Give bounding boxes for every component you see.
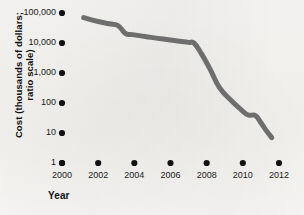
y-axis-tick-markers <box>59 10 65 166</box>
y-axis-title-line-2: ratio scale) <box>25 0 36 150</box>
y-axis-tick-label: 1 <box>0 157 56 167</box>
y-axis-tick-dot <box>59 10 65 16</box>
x-axis-tick-dot <box>240 160 246 166</box>
x-axis-tick-label: 2010 <box>223 170 263 180</box>
y-axis-tick-dot <box>59 40 65 46</box>
x-axis-tick-dot <box>95 160 101 166</box>
x-axis-tick-dot <box>204 160 210 166</box>
x-axis-tick-label: 2012 <box>259 170 299 180</box>
chart-plot-area <box>0 0 304 215</box>
x-axis-title: Year <box>48 190 70 201</box>
x-axis-tick-dot <box>276 160 282 166</box>
x-axis-tick-label: 2002 <box>78 170 118 180</box>
x-axis-tick-label: 2008 <box>187 170 227 180</box>
y-axis-title: Cost (thousands of dollars; ratio scale) <box>14 0 44 150</box>
x-axis-tick-dot <box>167 160 173 166</box>
y-axis-tick-dot <box>59 70 65 76</box>
y-axis-title-line-1: Cost (thousands of dollars; <box>14 0 25 150</box>
x-axis-tick-label: 2000 <box>42 170 82 180</box>
x-axis-tick-label: 2006 <box>151 170 191 180</box>
x-axis-tick-dot <box>59 160 65 166</box>
y-axis-tick-dot <box>59 130 65 136</box>
x-axis-tick-markers <box>59 160 282 166</box>
cost-trend-line <box>84 18 272 138</box>
x-axis-tick-label: 2004 <box>114 170 154 180</box>
chart-figure: 100,00010,0001,000100101 200020022004200… <box>0 0 304 215</box>
y-axis-tick-dot <box>59 100 65 106</box>
x-axis-tick-dot <box>131 160 137 166</box>
